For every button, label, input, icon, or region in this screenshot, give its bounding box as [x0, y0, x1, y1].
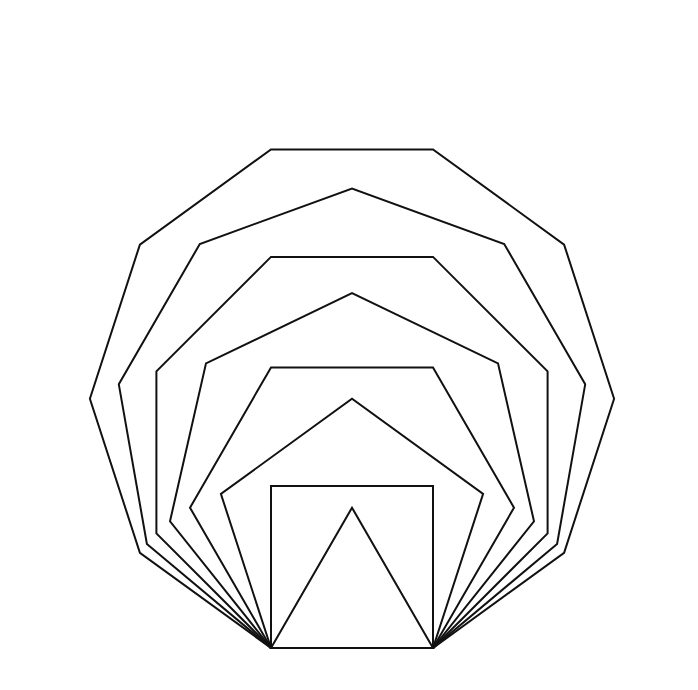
triangle-shape [271, 508, 433, 648]
heptagon-shape [170, 293, 534, 648]
polygon-diagram [0, 0, 698, 690]
square-shape [271, 486, 433, 648]
pentagon-shape [221, 399, 483, 648]
octagon-shape [156, 257, 547, 648]
